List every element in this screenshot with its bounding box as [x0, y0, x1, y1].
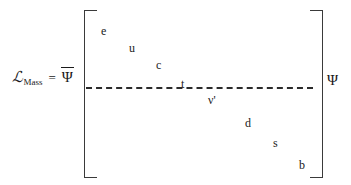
psi-symbol: Ψ — [327, 73, 338, 88]
particle-label-bottom-quark: b — [299, 159, 305, 171]
overbar-decoration — [61, 67, 74, 68]
lagrangian-subscript-mass: Mass — [24, 78, 43, 87]
particle-label-top-quark: t — [181, 78, 184, 90]
matrix-right-bracket — [310, 10, 323, 178]
equation-left-hand-side: ℒMass = Ψ — [12, 70, 74, 85]
particle-label-neutrino-prime: ν' — [208, 94, 216, 106]
lagrangian-symbol: ℒ — [12, 70, 23, 85]
particle-label-up-quark: u — [129, 42, 135, 54]
particle-label-charm-quark: c — [156, 59, 161, 71]
particle-label-strange-quark: s — [273, 137, 278, 149]
dashed-separator-line — [86, 87, 313, 89]
psi-bar-symbol: Ψ — [61, 70, 74, 85]
particle-label-electron: e — [101, 25, 106, 37]
equals-sign: = — [49, 71, 56, 84]
particle-label-down-quark: d — [245, 117, 251, 129]
mass-lagrangian-figure: ℒMass = Ψ e u c t ν' d s b Ψ — [0, 0, 351, 185]
matrix-left-bracket — [84, 10, 97, 178]
psi-bar-glyph: Ψ — [62, 69, 73, 85]
